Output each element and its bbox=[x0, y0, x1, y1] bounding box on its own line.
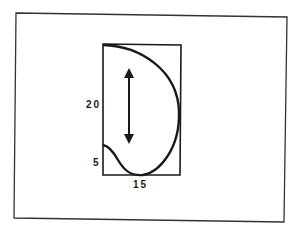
diagram-canvas: 20 5 15 bbox=[0, 0, 301, 228]
label-height-total: 20 bbox=[86, 99, 101, 110]
label-width: 15 bbox=[133, 179, 148, 190]
label-height-lower: 5 bbox=[93, 157, 101, 168]
d-shape-outline bbox=[103, 45, 179, 175]
